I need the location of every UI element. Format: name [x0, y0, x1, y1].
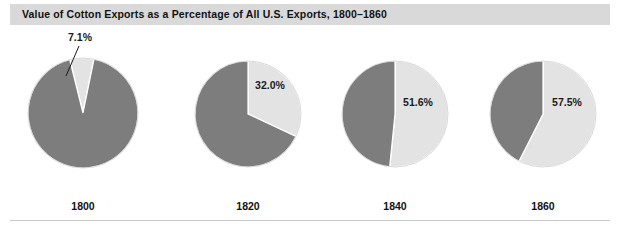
- pie-panel-1820: 32.0%1820: [195, 61, 301, 212]
- pie-panel-1800: 7.1%1800: [28, 31, 138, 212]
- pie-panel-1860: 57.5%1860: [490, 61, 596, 212]
- year-label-1800: 1800: [71, 200, 95, 212]
- bottom-rule: [10, 220, 610, 221]
- year-label-1840: 1840: [383, 200, 407, 212]
- year-label-1860: 1860: [531, 200, 555, 212]
- figure-container: Value of Cotton Exports as a Percentage …: [0, 0, 620, 226]
- year-label-1820: 1820: [236, 200, 260, 212]
- pie-chart-svg: 7.1%180032.0%182051.6%184057.5%1860: [0, 28, 620, 226]
- cotton-slice-1840: [390, 61, 448, 167]
- percentage-label-1840: 51.6%: [403, 96, 433, 108]
- pie-panel-1840: 51.6%1840: [342, 61, 448, 212]
- page-title: Value of Cotton Exports as a Percentage …: [22, 6, 387, 22]
- percentage-label-1820: 32.0%: [255, 79, 285, 91]
- percentage-label-1800: 7.1%: [68, 31, 93, 43]
- pie-chart-group: 7.1%180032.0%182051.6%184057.5%1860: [0, 28, 620, 203]
- percentage-label-1860: 57.5%: [552, 96, 582, 108]
- other-slice-1840: [342, 61, 395, 167]
